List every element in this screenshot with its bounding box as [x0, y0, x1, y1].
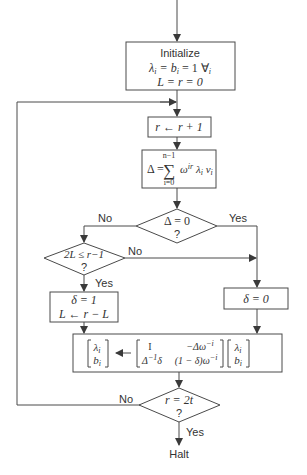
- arrow-delta-no: [84, 226, 136, 242]
- label-r-no: No: [119, 393, 133, 405]
- label-delta-no: No: [98, 212, 112, 224]
- halt-label: Halt: [169, 448, 189, 460]
- delta-box: Δ = n−1 ∑ i=0 ωir λi vi: [142, 150, 216, 188]
- set-delta-zero-box: δ = 0: [224, 288, 288, 309]
- set-delta-one-line1: δ = 1: [71, 293, 97, 307]
- decision-r-line1: r = 2t: [165, 393, 194, 407]
- flowchart: Initialize λi = bi = 1 ∀i L = r = 0 r ← …: [0, 0, 307, 475]
- delta-sum-lower: i=0: [164, 178, 175, 187]
- increment-box: r ← r + 1: [148, 117, 211, 137]
- arrow-delta-yes: [217, 226, 257, 287]
- decision-2L: 2L ≤ r−1 ?: [44, 243, 125, 275]
- set-delta-one-line2: L ← r − L: [58, 307, 109, 321]
- set-delta-zero-text: δ = 0: [243, 292, 269, 306]
- delta-lhs: Δ =: [147, 162, 164, 176]
- decision-delta-line1: Δ = 0: [164, 214, 190, 228]
- delta-sum-upper: n−1: [163, 151, 176, 160]
- set-delta-one-box: δ = 1 L ← r − L: [50, 292, 118, 322]
- initialize-line2: L = r = 0: [156, 75, 202, 89]
- label-L-yes: Yes: [95, 277, 113, 289]
- decision-2L-line1: 2L ≤ r−1: [64, 248, 104, 260]
- initialize-box: Initialize λi = bi = 1 ∀i L = r = 0: [126, 42, 235, 90]
- initialize-line1: λi = bi = 1 ∀i: [148, 61, 211, 76]
- decision-delta-zero: Δ = 0 ?: [136, 209, 217, 243]
- label-r-yes: Yes: [186, 426, 204, 438]
- increment-text: r ← r + 1: [155, 120, 202, 134]
- matrix-m11: I: [148, 341, 151, 352]
- initialize-title: Initialize: [160, 47, 200, 59]
- label-delta-yes: Yes: [229, 212, 247, 224]
- decision-delta-line2: ?: [174, 228, 180, 240]
- decision-r-line2: ?: [176, 407, 182, 419]
- decision-2L-line2: ?: [81, 261, 87, 273]
- decision-r-2t: r = 2t ?: [139, 388, 220, 422]
- label-L-no: No: [128, 245, 142, 257]
- delta-term: ωir λi vi: [180, 162, 213, 177]
- update-box: λi bi I −Δω−i Δ−1δ (1 − δ)ω−i λi bi: [73, 334, 282, 372]
